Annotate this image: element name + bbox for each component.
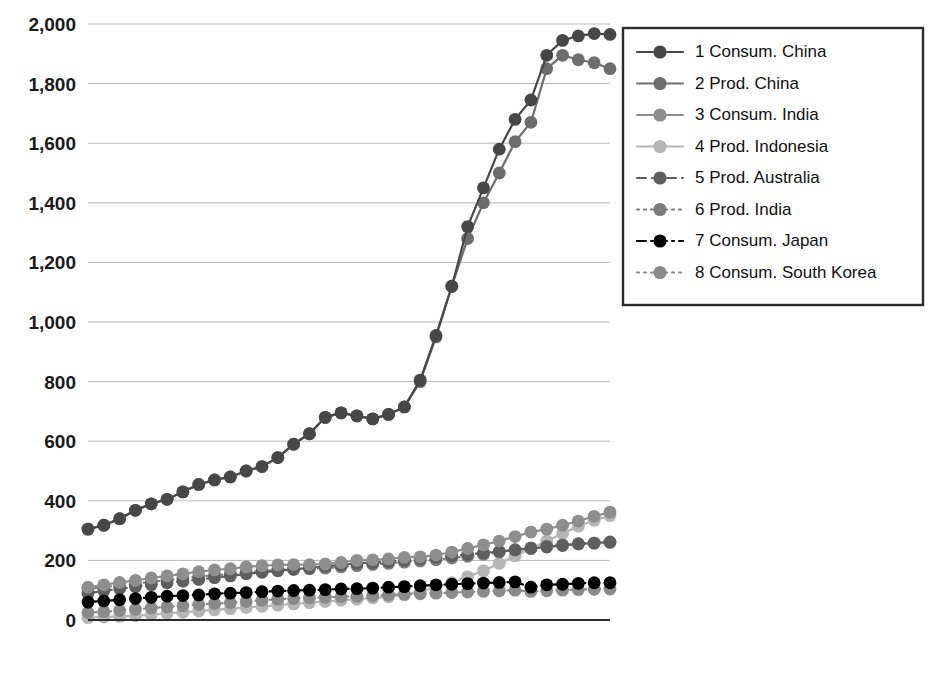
data-point <box>461 542 474 555</box>
data-point <box>493 557 506 570</box>
data-point <box>161 493 174 506</box>
data-point <box>271 585 284 598</box>
data-point <box>319 583 332 596</box>
data-point <box>335 556 348 569</box>
data-point <box>177 589 190 602</box>
legend-label: 6 Prod. India <box>695 200 792 219</box>
data-series-layer <box>82 27 617 624</box>
data-point <box>145 591 158 604</box>
data-point <box>572 577 585 590</box>
data-point <box>461 577 474 590</box>
data-point <box>588 56 601 69</box>
data-point <box>525 542 538 555</box>
data-point <box>97 519 110 532</box>
data-point <box>256 585 269 598</box>
y-axis-tick-label: 2,000 <box>28 14 76 35</box>
data-point <box>540 578 553 591</box>
data-point <box>113 512 126 525</box>
data-point <box>509 113 522 126</box>
y-axis-tick-label: 1,600 <box>28 133 76 154</box>
chart-canvas: 2,0001,8001,6001,4001,2001,0008006004002… <box>0 0 930 698</box>
data-point <box>493 535 506 548</box>
data-point <box>129 504 142 517</box>
chart-legend: 1 Consum. China2 Prod. China3 Consum. In… <box>623 28 923 305</box>
legend-label: 4 Prod. Indonesia <box>695 137 829 156</box>
data-point <box>335 583 348 596</box>
data-point <box>177 485 190 498</box>
data-point <box>240 465 253 478</box>
data-point <box>97 595 110 608</box>
series-2 <box>82 49 617 536</box>
y-axis-tick-label: 1,400 <box>28 193 76 214</box>
data-point <box>398 401 411 414</box>
data-point <box>572 538 585 551</box>
y-axis-tick-label: 800 <box>44 372 76 393</box>
data-point <box>224 562 237 575</box>
data-point <box>382 581 395 594</box>
y-axis-tick-label: 600 <box>44 431 76 452</box>
data-point <box>256 559 269 572</box>
data-point <box>240 561 253 574</box>
legend-marker-icon <box>653 266 666 279</box>
data-point <box>271 558 284 571</box>
data-point <box>351 554 364 567</box>
data-point <box>366 553 379 566</box>
data-point <box>556 49 569 62</box>
data-point <box>430 549 443 562</box>
data-point <box>177 567 190 580</box>
data-point <box>525 116 538 129</box>
data-point <box>477 539 490 552</box>
legend-marker-icon <box>653 140 666 153</box>
data-point <box>556 578 569 591</box>
legend-label: 8 Consum. South Korea <box>695 263 877 282</box>
data-point <box>461 220 474 233</box>
data-point <box>493 576 506 589</box>
data-point <box>556 519 569 532</box>
data-point <box>82 596 95 609</box>
data-point <box>398 551 411 564</box>
y-axis-tick-label: 1,000 <box>28 312 76 333</box>
data-point <box>493 143 506 156</box>
data-point <box>319 411 332 424</box>
series-1 <box>82 27 617 535</box>
data-point <box>208 474 221 487</box>
data-point <box>240 586 253 599</box>
data-point <box>414 550 427 563</box>
data-point <box>303 427 316 440</box>
data-point <box>525 526 538 539</box>
data-point <box>82 523 95 536</box>
data-point <box>256 460 269 473</box>
data-point <box>477 564 490 577</box>
data-point <box>556 539 569 552</box>
y-axis-tick-label: 200 <box>44 550 76 571</box>
data-point <box>556 34 569 47</box>
data-point <box>208 564 221 577</box>
data-point <box>604 62 617 75</box>
data-point <box>192 478 205 491</box>
data-point <box>588 510 601 523</box>
legend-label: 2 Prod. China <box>695 74 799 93</box>
data-point <box>588 576 601 589</box>
series-line <box>88 34 610 530</box>
data-point <box>525 94 538 107</box>
legend-label: 7 Consum. Japan <box>695 231 828 250</box>
legend-marker-icon <box>653 203 666 216</box>
data-point <box>82 581 95 594</box>
data-point <box>540 523 553 536</box>
data-point <box>572 30 585 43</box>
data-point <box>493 167 506 180</box>
data-point <box>604 506 617 519</box>
data-point <box>540 541 553 554</box>
legend-marker-icon <box>653 108 666 121</box>
data-point <box>540 49 553 62</box>
data-point <box>430 578 443 591</box>
data-point <box>145 497 158 510</box>
legend-marker-icon <box>653 171 666 184</box>
data-point <box>509 575 522 588</box>
legend-label: 1 Consum. China <box>695 42 827 61</box>
data-point <box>382 408 395 421</box>
data-point <box>113 576 126 589</box>
legend-label: 3 Consum. India <box>695 105 819 124</box>
data-point <box>604 536 617 549</box>
data-point <box>588 27 601 40</box>
